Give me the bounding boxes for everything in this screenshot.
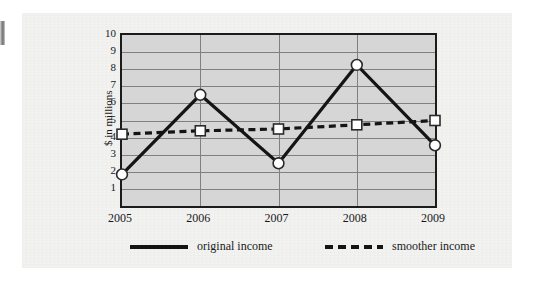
data-point-marker [195, 89, 206, 100]
y-axis-tick-label: 6 [94, 96, 116, 106]
data-point-marker [430, 140, 441, 151]
dashed-line-icon [325, 245, 383, 249]
x-axis-tick-label: 2006 [174, 211, 222, 226]
data-point-marker [273, 158, 284, 169]
y-axis-tick-label: 8 [94, 62, 116, 72]
legend-label: original income [197, 239, 273, 254]
x-axis-tick-labels: 20052006200720082009 [120, 211, 437, 229]
chart-screenshot: $ in millions 12345678910 20052006200720… [0, 0, 542, 283]
x-axis-tick-label: 2007 [253, 211, 301, 226]
legend-label: smoother income [392, 239, 475, 254]
x-axis-tick-label: 2005 [96, 211, 144, 226]
legend-item-smoother-income[interactable]: smoother income [325, 239, 475, 254]
y-axis-tick-label: 9 [94, 45, 116, 55]
data-point-marker [351, 60, 362, 71]
y-axis-tick-label: 2 [94, 165, 116, 175]
series-layer [122, 35, 435, 206]
y-axis-tick-label: 7 [94, 79, 116, 89]
data-point-marker [195, 126, 205, 136]
data-point-marker [117, 129, 127, 139]
legend-item-original-income[interactable]: original income [130, 239, 273, 254]
x-axis-tick-label: 2008 [331, 211, 379, 226]
y-axis-tick-labels: 12345678910 [94, 33, 116, 208]
data-point-marker [352, 120, 362, 130]
data-point-marker [430, 116, 440, 126]
chart-panel: $ in millions 12345678910 20052006200720… [22, 13, 512, 268]
solid-line-icon [130, 245, 188, 249]
data-point-marker [117, 169, 128, 180]
y-axis-tick-label: 5 [94, 114, 116, 124]
y-axis-tick-label: 3 [94, 148, 116, 158]
chart-legend: original incomesmoother income [120, 239, 480, 259]
y-axis-tick-label: 4 [94, 131, 116, 141]
plot-area [120, 33, 437, 208]
y-axis-tick-label: 1 [94, 182, 116, 192]
x-axis-tick-label: 2009 [409, 211, 457, 226]
y-axis-tick-label: 10 [94, 28, 116, 38]
scan-edge-artifact [0, 21, 5, 45]
data-point-marker [274, 124, 284, 134]
